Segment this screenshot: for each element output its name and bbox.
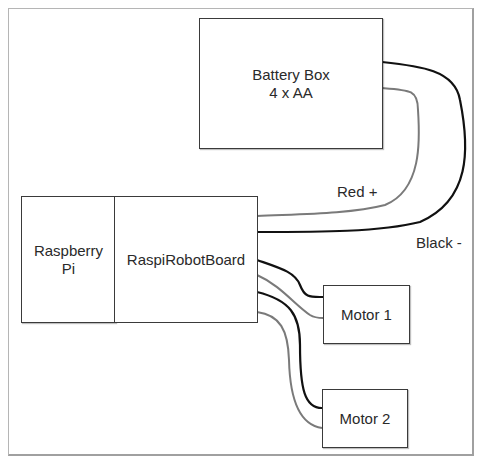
raspirobotboard-box: RaspiRobotBoard [114, 196, 258, 323]
motor2-black-wire [257, 292, 322, 408]
raspirobotboard-label: RaspiRobotBoard [127, 251, 245, 269]
black-wire-label: Black - [416, 234, 462, 251]
battery-box-title: Battery Box [252, 66, 330, 84]
battery-box-subtitle: 4 x AA [252, 84, 330, 102]
red-wire-label: Red + [337, 183, 377, 200]
motor2-box: Motor 2 [322, 389, 408, 448]
motor1-label: Motor 1 [341, 306, 392, 324]
raspberry-pi-label-line2: Pi [34, 260, 103, 278]
motor2-red-wire [257, 312, 322, 428]
battery-box: Battery Box 4 x AA [199, 18, 383, 149]
motor1-black-wire [257, 260, 323, 297]
raspberry-pi-label-line1: Raspberry [34, 242, 103, 260]
motor2-label: Motor 2 [340, 410, 391, 428]
motor1-box: Motor 1 [323, 285, 410, 344]
raspberry-pi-box: Raspberry Pi [21, 196, 116, 323]
